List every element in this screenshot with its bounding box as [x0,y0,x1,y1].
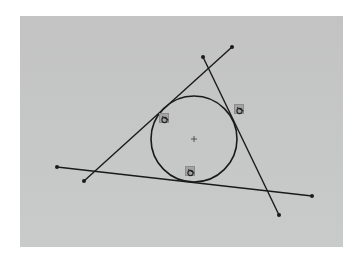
tangent-relation-3[interactable] [185,166,195,176]
tangent-icon [235,105,245,115]
tangent-relation-1[interactable] [159,113,169,123]
endpoint-line-1-start[interactable] [82,179,86,183]
sketch-geometry [0,0,361,256]
tangent-icon [160,114,170,124]
endpoint-line-2-start[interactable] [201,55,205,59]
tangent-icon [186,167,196,177]
tangent-relation-2[interactable] [234,104,244,114]
endpoint-line-3-start[interactable] [55,165,59,169]
endpoint-line-3-end[interactable] [310,194,314,198]
endpoint-line-2-end[interactable] [277,213,281,217]
sketch-line-1[interactable] [84,47,232,181]
circle-center-mark[interactable] [191,136,197,142]
endpoint-line-1-end[interactable] [230,45,234,49]
